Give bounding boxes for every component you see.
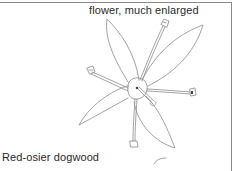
anther-top (161, 19, 169, 27)
stamen-bottom-filament-2 (135, 99, 137, 141)
stamen-top-filament-2 (142, 27, 165, 81)
anther-bottom (130, 141, 138, 147)
pistil-base-dot (136, 87, 139, 90)
anther-right-dark (191, 91, 193, 94)
stamen-top-filament (140, 26, 163, 80)
petal-upper-left (107, 19, 139, 82)
figure-caption: flower, much enlarged (89, 4, 199, 16)
stray-stroke (154, 158, 166, 164)
petal-upper-right (142, 25, 203, 86)
flower-drawing (0, 0, 233, 171)
petal-lower-right (134, 96, 175, 148)
plant-name-label: Red-osier dogwood (2, 151, 99, 163)
stamen-left-filament-2 (91, 74, 128, 91)
stamen-left-filament (92, 72, 128, 88)
anther-left (87, 66, 95, 74)
petal-lower-left (79, 86, 128, 125)
illustration-panel: flower, much enlarged Red-osier dogwood (0, 0, 233, 171)
pistil (137, 88, 152, 103)
